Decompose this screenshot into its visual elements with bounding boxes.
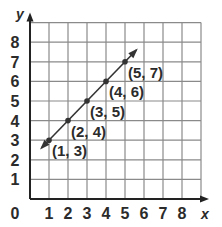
x-tick-label: 4 xyxy=(102,205,111,222)
x-axis-label: x xyxy=(200,206,210,222)
y-tick-label: 8 xyxy=(11,34,20,51)
point-label: (5, 7) xyxy=(128,64,163,81)
data-point xyxy=(122,59,128,65)
data-point xyxy=(84,98,90,104)
point-label: (4, 6) xyxy=(109,83,144,100)
data-point xyxy=(65,118,71,124)
y-tick-label: 7 xyxy=(11,54,20,71)
x-tick-label: 8 xyxy=(178,205,187,222)
data-point xyxy=(46,137,52,143)
point-labels: (1, 3)(2, 4)(3, 5)(4, 6)(5, 7) xyxy=(52,64,163,159)
y-axis-label: y xyxy=(15,6,25,22)
y-tick-label: 1 xyxy=(11,171,20,188)
point-label: (1, 3) xyxy=(52,142,87,159)
x-tick-label: 3 xyxy=(83,205,92,222)
point-label: (3, 5) xyxy=(90,103,125,120)
origin-label: 0 xyxy=(11,205,20,222)
y-tick-label: 3 xyxy=(11,132,20,149)
y-tick-label: 6 xyxy=(11,73,20,90)
x-tick-label: 1 xyxy=(45,205,54,222)
data-point xyxy=(103,79,109,85)
x-tick-label: 6 xyxy=(140,205,149,222)
y-tick-label: 4 xyxy=(11,113,20,130)
y-axis-arrow-icon xyxy=(27,13,34,22)
x-tick-label: 7 xyxy=(159,205,168,222)
point-label: (2, 4) xyxy=(71,123,106,140)
x-tick-label: 2 xyxy=(64,205,73,222)
y-tick-label: 2 xyxy=(11,152,20,169)
x-axis-arrow-icon xyxy=(200,196,209,203)
y-tick-label: 5 xyxy=(11,93,20,110)
coordinate-plane-chart: 12345678123456780xy (1, 3)(2, 4)(3, 5)(4… xyxy=(0,0,222,227)
x-tick-label: 5 xyxy=(121,205,130,222)
